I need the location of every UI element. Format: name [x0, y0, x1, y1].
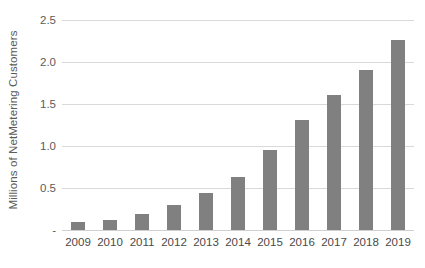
bar — [295, 120, 309, 230]
x-tick-label: 2012 — [161, 236, 187, 248]
y-tick-label: - — [52, 224, 56, 236]
y-axis-tick-labels: -0.51.01.52.02.5 — [26, 0, 60, 268]
bar-chart: Millions of NetMetering Customers -0.51.… — [0, 0, 425, 268]
x-axis-tick-labels: 2009201020112012201320142015201620172018… — [62, 234, 414, 258]
bar — [71, 222, 85, 230]
y-tick-label: 1.5 — [40, 98, 56, 110]
y-axis-title-label: Millions of NetMetering Customers — [7, 30, 19, 209]
x-tick-label: 2018 — [353, 236, 379, 248]
bar — [103, 220, 117, 230]
bar — [135, 214, 149, 230]
x-tick-label: 2016 — [289, 236, 315, 248]
bar — [359, 70, 373, 230]
bar — [391, 40, 405, 230]
x-tick-label: 2015 — [257, 236, 283, 248]
x-tick-label: 2013 — [193, 236, 219, 248]
y-tick-label: 0.5 — [40, 182, 56, 194]
bars-layer — [62, 0, 414, 232]
y-tick-label: 2.5 — [40, 14, 56, 26]
x-tick-label: 2011 — [130, 236, 155, 248]
y-tick-label: 1.0 — [40, 140, 56, 152]
bar — [327, 95, 341, 230]
bar — [231, 177, 245, 230]
bar — [263, 150, 277, 230]
bar — [167, 205, 181, 230]
x-tick-label: 2017 — [321, 236, 347, 248]
plot-area — [62, 0, 414, 232]
y-axis-title: Millions of NetMetering Customers — [0, 0, 26, 240]
x-tick-label: 2010 — [97, 236, 123, 248]
bar — [199, 193, 213, 230]
y-tick-label: 2.0 — [40, 56, 56, 68]
x-tick-label: 2014 — [225, 236, 251, 248]
x-tick-label: 2019 — [385, 236, 411, 248]
x-tick-label: 2009 — [65, 236, 91, 248]
